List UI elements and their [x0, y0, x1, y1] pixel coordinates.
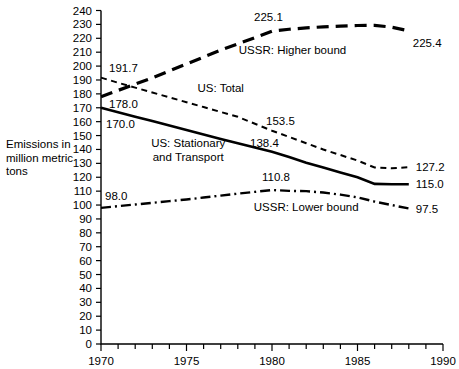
y-axis-title-line-2: million metric	[6, 152, 73, 164]
point-value-label: 178.0	[109, 98, 138, 110]
chart-svg: Emissions in million metric tons 0102030…	[0, 0, 459, 369]
point-value-label: 153.5	[266, 115, 295, 127]
y-tick-label: 160	[73, 116, 92, 128]
point-value-label: 225.1	[254, 11, 283, 23]
series-annotation: USSR: Higher bound	[239, 44, 346, 56]
y-tick-label: 90	[79, 213, 92, 225]
y-tick-label: 30	[79, 296, 92, 308]
x-tick-label: 1990	[430, 355, 456, 367]
y-tick-label: 220	[73, 32, 92, 44]
y-tick-label: 20	[79, 310, 92, 322]
point-value-label: 97.5	[416, 203, 438, 215]
x-tick-label: 1985	[345, 355, 371, 367]
series-line-short-dashed	[101, 78, 409, 169]
x-axis-ticks: 19701975198019851990	[88, 344, 456, 367]
x-tick-label: 1970	[88, 355, 114, 367]
x-tick-label: 1975	[174, 355, 200, 367]
x-tick-label: 1980	[259, 355, 285, 367]
point-value-label: 138.4	[250, 137, 279, 149]
y-tick-label: 180	[73, 88, 92, 100]
y-axis-title-group: Emissions in million metric tons	[6, 138, 73, 177]
y-tick-label: 130	[73, 157, 92, 169]
y-tick-label: 10	[79, 324, 92, 336]
y-axis-title-line-3: tons	[6, 165, 28, 177]
y-tick-label: 70	[79, 241, 92, 253]
y-tick-label: 210	[73, 46, 92, 58]
y-tick-label: 190	[73, 74, 92, 86]
point-value-label: 110.8	[262, 171, 290, 183]
y-tick-label: 150	[73, 130, 92, 142]
point-value-label: 191.7	[109, 62, 138, 74]
y-tick-label: 0	[86, 338, 92, 350]
series-annotation: US: Total	[197, 82, 243, 94]
y-axis-title-line-1: Emissions in	[6, 138, 71, 150]
series-annotation: and Transport	[153, 151, 225, 163]
y-tick-label: 110	[74, 185, 92, 197]
point-value-label: 225.4	[413, 37, 442, 49]
y-tick-label: 240	[73, 5, 92, 17]
y-tick-label: 140	[73, 143, 92, 155]
series-line-long-dashed	[101, 25, 409, 96]
point-value-label: 170.0	[106, 118, 135, 130]
y-tick-label: 200	[73, 60, 92, 72]
y-tick-label: 80	[79, 227, 92, 239]
emissions-line-chart: Emissions in million metric tons 0102030…	[0, 0, 459, 369]
y-tick-label: 170	[73, 102, 92, 114]
point-value-label: 98.0	[105, 190, 127, 202]
point-value-label: 127.2	[416, 161, 445, 173]
y-axis-ticks: 0102030405060708090100110120130140150160…	[73, 5, 101, 351]
y-tick-label: 50	[79, 269, 92, 281]
y-tick-label: 40	[79, 282, 92, 294]
series-annotation: US: Stationary	[151, 137, 225, 149]
point-value-label: 115.0	[416, 178, 444, 190]
series-annotation: USSR: Lower bound	[254, 201, 359, 213]
y-tick-label: 60	[79, 255, 92, 267]
y-tick-label: 100	[73, 199, 92, 211]
y-tick-label: 230	[73, 18, 92, 30]
y-tick-label: 120	[73, 171, 92, 183]
